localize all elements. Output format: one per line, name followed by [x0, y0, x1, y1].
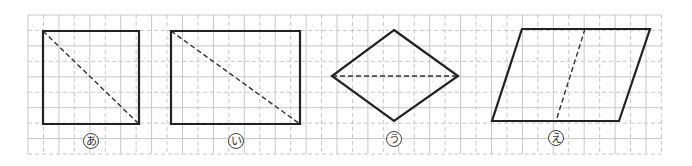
figure-rhombus: う — [332, 30, 458, 147]
figure-parallelogram: え — [492, 29, 650, 146]
square-dashed-line — [43, 31, 139, 124]
figure-label-u: う — [389, 133, 400, 146]
shapes-layer: あいうえ — [43, 29, 650, 149]
rectangle-dashed-line — [171, 31, 300, 124]
figure-canvas: あいうえ — [0, 0, 692, 166]
rectangle-outline — [171, 31, 300, 124]
figure-label-a: あ — [86, 135, 97, 148]
figure-rectangle: い — [171, 31, 300, 149]
figure-label-i: い — [231, 135, 242, 148]
figure-square: あ — [43, 31, 139, 149]
figure-label-e: え — [551, 132, 562, 145]
